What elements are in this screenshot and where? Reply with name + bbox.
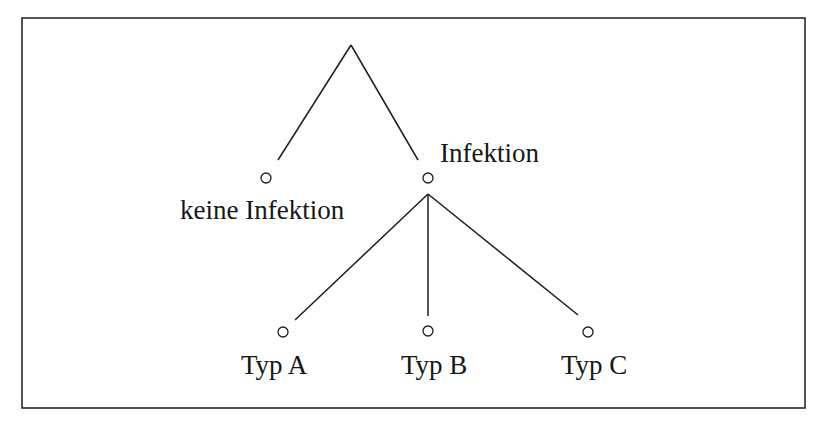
node-infection (423, 173, 433, 183)
node-type-a (278, 327, 288, 337)
edge-infection-to-type-c (428, 194, 578, 315)
label-type-b: Typ B (401, 350, 467, 380)
edge-root-to-infection (351, 45, 418, 160)
label-infection: Infektion (440, 138, 539, 168)
tree-diagram: keine Infektion Infektion Typ A Typ B Ty… (0, 0, 827, 437)
node-type-b (423, 326, 433, 336)
label-type-a: Typ A (241, 350, 308, 380)
label-no-infection: keine Infektion (180, 195, 345, 225)
label-type-c: Typ C (561, 350, 627, 380)
node-no-infection (261, 173, 271, 183)
edge-root-to-no-infection (278, 45, 351, 160)
node-type-c (583, 327, 593, 337)
